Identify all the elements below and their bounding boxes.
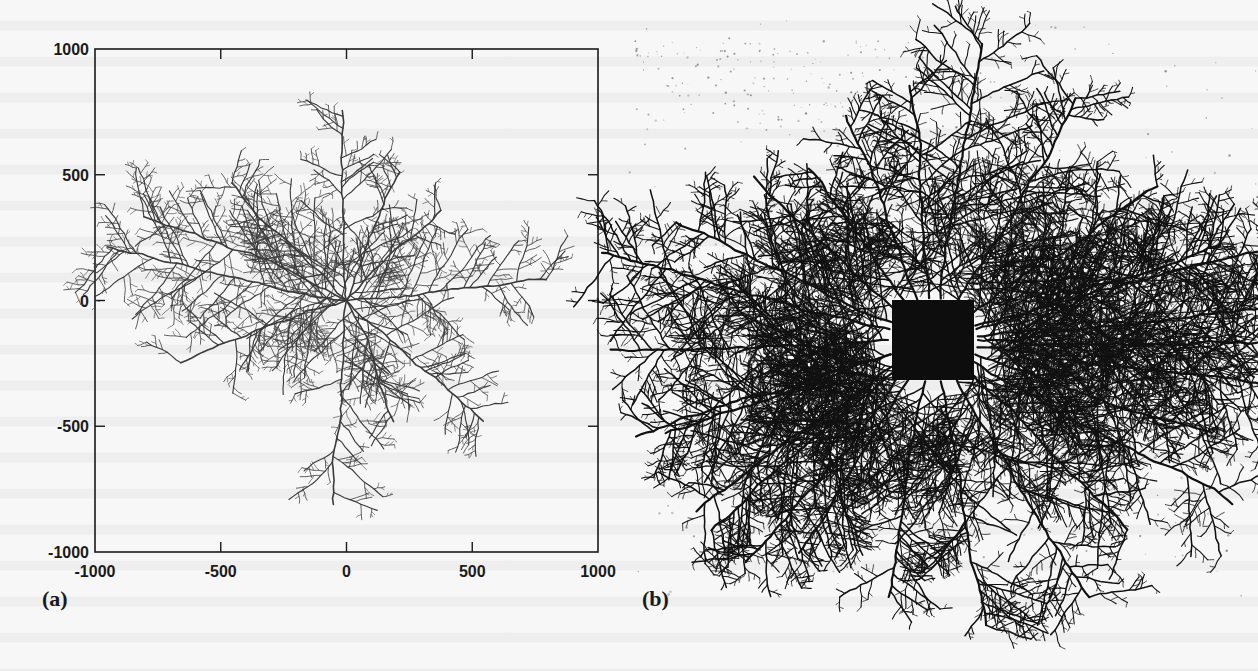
y-tick-label: -1000 [48,544,89,561]
x-tick-label: 1000 [580,563,616,580]
x-tick-label: -1000 [75,563,116,580]
simulated-aggregate [64,92,574,520]
y-tick-label: 0 [80,293,89,310]
y-tick-label: 1000 [53,41,89,58]
panel-b: (b) [620,0,1258,671]
panel-a: -1000-50005001000-1000-50005001000 (a) [0,0,620,671]
panel-b-label: (b) [642,586,669,612]
x-tick-label: -500 [205,563,237,580]
x-tick-label: 500 [459,563,486,580]
x-tick-label: 0 [342,563,351,580]
y-tick-label: -500 [57,418,89,435]
y-tick-label: 500 [62,167,89,184]
square-electrode [892,300,974,380]
panel-b-image [620,0,1258,671]
panel-a-plot: -1000-50005001000-1000-50005001000 [0,0,620,671]
panel-a-label: (a) [42,586,68,612]
